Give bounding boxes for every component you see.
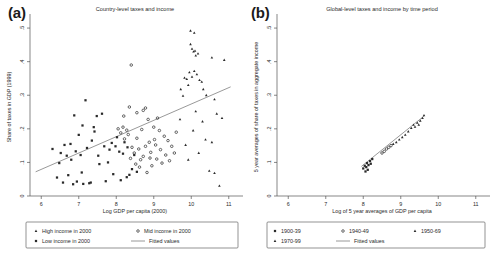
data-point-circle [151, 164, 154, 167]
legend-label: High income in 2000 [42, 228, 91, 234]
data-point-triangle [191, 48, 194, 50]
x-tick-label: 6 [287, 201, 290, 207]
data-point-square [128, 174, 130, 176]
data-point-triangle [198, 79, 201, 81]
y-axis-label: Share of taxes in GDP (1999) [6, 71, 12, 142]
data-point-triangle [179, 118, 182, 120]
x-axis-label: Log GDP per capita (2000) [103, 208, 168, 214]
data-point-circle [128, 106, 131, 109]
data-point-circle [142, 155, 145, 158]
legend-label: Fitted values [149, 238, 180, 244]
data-point-square [120, 179, 122, 181]
plot-title: Country-level taxes and income [96, 6, 174, 12]
x-tick-label: 8 [115, 201, 118, 207]
data-point-triangle [414, 230, 417, 232]
panel-a: (a) Country-level taxes and income.5.4.3… [0, 0, 246, 256]
data-point-triangle [193, 31, 196, 33]
legend-label: 1970-99 [281, 238, 301, 244]
data-point-circle [168, 159, 171, 162]
data-point-square [80, 154, 82, 156]
data-point-square [84, 99, 86, 101]
data-point-triangle [179, 88, 182, 90]
y-tick-label: 0 [19, 195, 25, 198]
x-tick-label: 11 [473, 201, 479, 207]
data-point-circle [342, 230, 345, 233]
data-point-circle [122, 126, 125, 129]
data-point-square [371, 158, 373, 160]
data-point-circle [147, 118, 150, 121]
legend-item: 1900-39 [274, 228, 301, 234]
data-point-circle [154, 144, 157, 147]
y-tick-label: .3 [266, 93, 272, 98]
data-point-square [72, 183, 74, 185]
data-point-square [122, 153, 124, 155]
x-tick-label: 7 [77, 201, 80, 207]
data-point-square [96, 115, 98, 117]
legend-box [267, 222, 485, 248]
x-tick-label: 6 [40, 201, 43, 207]
data-point-circle [138, 166, 141, 169]
x-tick-label: 7 [324, 201, 327, 207]
data-point-circle [129, 157, 132, 160]
data-point-square [364, 170, 366, 172]
data-point-triangle [192, 129, 195, 131]
data-point-square [103, 145, 105, 147]
data-point-triangle [395, 141, 398, 143]
legend-label: 1940-49 [349, 228, 369, 234]
data-point-triangle [223, 59, 226, 61]
legend-item: High income in 2000 [35, 228, 91, 234]
y-tick-label: 0 [266, 195, 272, 198]
data-point-square [108, 149, 110, 151]
y-axis-label: 5 year averages of share of taxes in agg… [253, 42, 259, 172]
data-point-square [82, 183, 84, 185]
data-point-square [90, 181, 92, 183]
data-point-square [126, 146, 128, 148]
data-point-square [76, 180, 78, 182]
legend-item: Low income in 2000 [35, 238, 90, 244]
data-point-triangle [274, 240, 277, 242]
data-point-square [70, 159, 72, 161]
data-point-triangle [194, 110, 197, 112]
data-point-triangle [211, 141, 214, 143]
panel-b: (b) Global-level taxes and income by tim… [247, 0, 493, 256]
y-tick-label: .1 [19, 160, 25, 165]
data-point-square [75, 150, 77, 152]
data-point-square [81, 171, 83, 173]
data-point-circle [119, 132, 122, 135]
data-point-circle [144, 107, 147, 110]
data-point-triangle [213, 98, 216, 100]
data-point-circle [122, 115, 125, 118]
data-point-circle [144, 145, 147, 148]
data-point-triangle [218, 185, 221, 187]
data-point-circle [164, 154, 167, 157]
data-point-triangle [189, 29, 192, 31]
data-point-triangle [208, 169, 211, 171]
panel-a-plot: Country-level taxes and income.5.4.3.2.1… [0, 0, 246, 256]
data-point-circle [130, 64, 133, 67]
data-point-square [118, 151, 120, 153]
y-tick-label: .3 [19, 93, 25, 98]
y-tick-label: .5 [19, 26, 25, 31]
data-point-triangle [182, 95, 185, 97]
data-point-square [81, 124, 83, 126]
x-tick-label: 11 [226, 201, 232, 207]
data-point-square [86, 147, 88, 149]
data-point-square [362, 167, 364, 169]
data-point-square [369, 160, 371, 162]
x-tick-label: 10 [188, 201, 194, 207]
data-point-square [67, 174, 69, 176]
data-point-circle [167, 139, 170, 142]
data-point-circle [159, 148, 162, 151]
data-point-triangle [188, 71, 191, 73]
x-axis-label: Log of 5 year averages of GDP per capita [332, 208, 431, 214]
data-point-square [370, 163, 372, 165]
y-tick-label: .1 [266, 160, 272, 165]
y-tick-label: .2 [266, 127, 272, 132]
legend-item: 1970-99 [274, 238, 301, 244]
data-point-square [123, 141, 125, 143]
legend-label: Fitted values [354, 238, 385, 244]
data-point-square [66, 155, 68, 157]
data-point-triangle [197, 52, 200, 54]
data-point-circle [152, 126, 155, 129]
panel-b-plot: Global-level taxes and income by time pe… [247, 0, 493, 256]
